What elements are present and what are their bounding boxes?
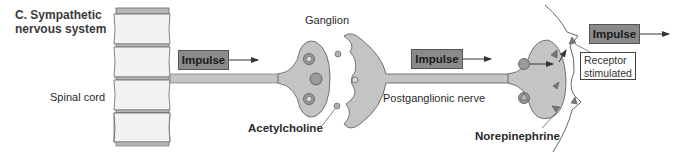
- spinal-cord-label: Spinal cord: [50, 91, 105, 104]
- section-title-line2: nervous system: [15, 22, 106, 36]
- section-title: C. Sympathetic nervous system: [15, 8, 106, 37]
- impulse-box-preganglionic: Impulse: [178, 50, 229, 70]
- receptor-label-line1: Receptor: [584, 54, 632, 67]
- spinal-column: [114, 8, 170, 146]
- receptor-stimulated-box: Receptor stimulated: [580, 52, 636, 80]
- ganglion-label: Ganglion: [305, 14, 349, 27]
- acetylcholine-label: Acetylcholine: [248, 122, 323, 135]
- receptor-label-line2: stimulated: [584, 67, 632, 80]
- impulse-box-effector: Impulse: [589, 24, 640, 44]
- ganglion-cell: [344, 34, 520, 128]
- norepinephrine-label: Norepinephrine: [475, 130, 560, 143]
- postganglionic-nerve-label: Postganglionic nerve: [383, 92, 485, 105]
- section-title-line1: C. Sympathetic: [15, 8, 106, 22]
- impulse-box-postganglionic: Impulse: [411, 49, 463, 69]
